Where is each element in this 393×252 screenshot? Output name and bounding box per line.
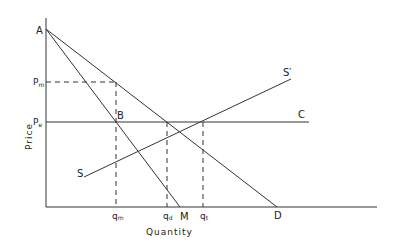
label-a: A xyxy=(36,25,43,36)
label-m: M xyxy=(180,211,189,222)
x-axis-title: Quantity xyxy=(146,227,193,237)
label-b: B xyxy=(117,110,124,121)
economics-diagram: A B C D M S S′ Pm Pe qm qd qt Quantity P… xyxy=(0,0,393,252)
label-qm: qm xyxy=(112,211,124,221)
supply-curve xyxy=(84,79,291,177)
label-qt: qt xyxy=(200,211,209,221)
label-pm: Pm xyxy=(33,77,44,88)
marginal-revenue-curve xyxy=(46,29,180,207)
label-s: S xyxy=(77,168,83,179)
y-axis-title: Price xyxy=(24,123,34,150)
label-pe: Pe xyxy=(33,117,42,128)
label-c: C xyxy=(298,109,305,120)
label-d: D xyxy=(274,210,282,221)
label-qd: qd xyxy=(163,211,173,221)
label-s-prime: S′ xyxy=(283,67,292,78)
demand-curve xyxy=(46,29,277,207)
